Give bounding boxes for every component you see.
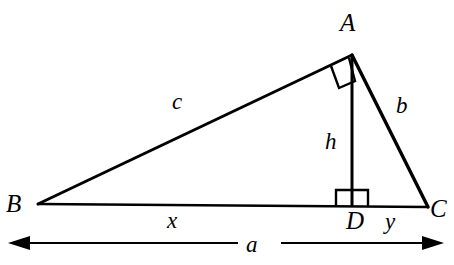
segment-b-line xyxy=(352,55,428,207)
segment-label-a: a xyxy=(246,233,258,256)
segment-label-c: c xyxy=(172,90,182,113)
vertex-label-d: D xyxy=(346,208,364,233)
segment-label-b: b xyxy=(396,94,408,117)
segment-c-line xyxy=(38,55,352,204)
geometry-figure: A B C D c b h x y a xyxy=(0,0,454,265)
vertex-label-a: A xyxy=(340,10,355,35)
segment-a-base-line xyxy=(38,204,428,207)
arrow-left-icon xyxy=(8,236,30,250)
segment-label-y: y xyxy=(385,210,395,233)
arrow-right-icon xyxy=(422,236,444,250)
segment-label-x: x xyxy=(167,209,177,232)
vertex-label-c: C xyxy=(430,196,447,221)
vertex-label-b: B xyxy=(6,191,21,216)
segment-label-h: h xyxy=(325,130,337,153)
